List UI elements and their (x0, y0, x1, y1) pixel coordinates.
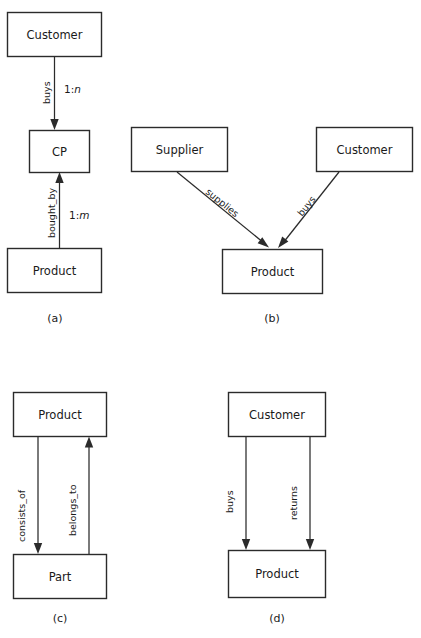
panel-caption-d: (d) (269, 612, 285, 625)
arrow-head-icon (242, 539, 250, 550)
cardinality-variable: n (74, 83, 81, 95)
entity-box-a-customer[interactable]: Customer (8, 13, 102, 57)
relationship-label: supplies (204, 186, 241, 219)
entity-label: Product (33, 264, 77, 278)
relationship-label: buys (224, 490, 235, 513)
entity-label: Customer (337, 143, 393, 157)
entity-box-d-product[interactable]: Product (229, 551, 326, 598)
relationship-label: belongs_to (67, 484, 78, 536)
cardinality-variable: m (79, 209, 89, 221)
arrow-head-icon (55, 172, 63, 183)
relationship-label: consists_of (16, 489, 27, 542)
relationship-label: bought_by (46, 188, 57, 238)
relationship-label: returns (288, 486, 299, 520)
entity-box-b-product[interactable]: Product (223, 250, 323, 294)
entity-label: CP (52, 145, 67, 159)
entity-box-b-supplier[interactable]: Supplier (132, 128, 228, 172)
cardinality-label: 1:n (64, 83, 81, 95)
entity-box-c-product[interactable]: Product (14, 393, 107, 437)
arrow-head-icon (85, 437, 93, 448)
arrow-head-icon (50, 119, 58, 130)
cardinality-prefix: 1: (69, 209, 79, 221)
entity-label: Customer (249, 408, 305, 422)
relationship-c-belongs-to[interactable]: belongs_to (67, 437, 93, 555)
panel-d: Customer buys returns Product (d) (224, 393, 326, 626)
panel-caption-b: (b) (264, 312, 280, 325)
entity-box-a-product[interactable]: Product (8, 249, 102, 293)
cardinality-prefix: 1: (64, 83, 74, 95)
entity-label: Product (251, 265, 295, 279)
relationship-label: buys (295, 194, 318, 219)
entity-box-c-part[interactable]: Part (14, 555, 107, 599)
relationship-label: buys (41, 81, 52, 104)
relationship-b-buys[interactable]: buys (278, 172, 339, 248)
entity-label: Part (49, 570, 72, 584)
entity-label: Product (38, 408, 82, 422)
relationship-a-bought-by[interactable]: bought_by 1:m (46, 172, 89, 248)
relationship-d-buys[interactable]: buys (224, 437, 250, 551)
panel-caption-a: (a) (47, 312, 62, 325)
panel-c: Product consists_of belongs_to Part (c) (14, 393, 107, 626)
panel-b: Supplier Customer supplies buys Product … (132, 128, 413, 326)
entity-label: Product (255, 567, 299, 581)
entity-box-d-customer[interactable]: Customer (229, 393, 326, 437)
entity-box-a-cp[interactable]: CP (30, 131, 90, 173)
er-diagram-figure: Customer buys 1:n CP bought_by 1:m Produ… (0, 0, 421, 638)
entity-box-b-customer[interactable]: Customer (317, 128, 413, 172)
entity-label: Customer (27, 28, 83, 42)
arrow-head-icon (34, 543, 42, 554)
panel-caption-c: (c) (53, 612, 68, 625)
relationship-a-buys[interactable]: buys 1:n (41, 57, 81, 131)
relationship-d-returns[interactable]: returns (288, 437, 314, 551)
panel-a: Customer buys 1:n CP bought_by 1:m Produ… (8, 13, 102, 326)
relationship-b-supplies[interactable]: supplies (177, 172, 269, 248)
arrow-head-icon (306, 539, 314, 550)
cardinality-label: 1:m (69, 209, 89, 221)
entity-label: Supplier (156, 143, 204, 157)
relationship-c-consists-of[interactable]: consists_of (16, 437, 42, 555)
